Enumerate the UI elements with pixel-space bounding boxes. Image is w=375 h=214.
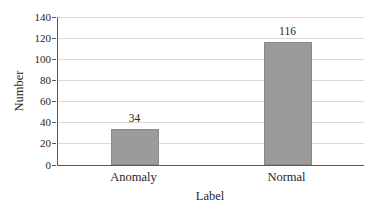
y-tick-mark-40 <box>52 122 56 123</box>
bar-normal <box>264 42 312 165</box>
x-axis-title: Label <box>57 189 363 203</box>
bar-value-label-anomaly: 34 <box>95 112 175 125</box>
bar-chart-figure: Number 34116 020406080100120140 AnomalyN… <box>0 0 375 214</box>
gridline-y-80 <box>58 80 364 81</box>
y-tick-label-120: 120 <box>0 32 51 45</box>
y-tick-label-100: 100 <box>0 53 51 66</box>
plot-area: 34116 <box>57 17 364 166</box>
gridline-y-60 <box>58 101 364 102</box>
y-tick-mark-140 <box>52 17 56 18</box>
y-tick-label-60: 60 <box>0 95 51 108</box>
y-tick-label-20: 20 <box>0 137 51 150</box>
y-tick-label-40: 40 <box>0 116 51 129</box>
y-tick-mark-80 <box>52 80 56 81</box>
category-label-normal: Normal <box>232 170 342 184</box>
bar-value-label-normal: 116 <box>248 25 328 38</box>
bar-anomaly <box>111 129 159 165</box>
gridline-y-140 <box>58 17 364 18</box>
gridline-y-100 <box>58 59 364 60</box>
y-tick-mark-120 <box>52 38 56 39</box>
y-tick-mark-60 <box>52 101 56 102</box>
y-tick-label-0: 0 <box>0 159 51 172</box>
y-tick-label-140: 140 <box>0 11 51 24</box>
y-tick-mark-0 <box>52 165 56 166</box>
category-label-anomaly: Anomaly <box>79 170 189 184</box>
gridline-y-20 <box>58 143 364 144</box>
y-tick-mark-100 <box>52 59 56 60</box>
y-tick-mark-20 <box>52 143 56 144</box>
y-tick-label-80: 80 <box>0 74 51 87</box>
